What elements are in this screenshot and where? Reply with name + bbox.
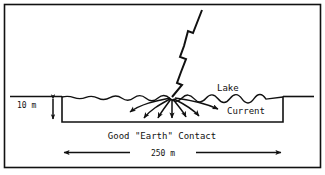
- depth-label: 10 m: [17, 101, 36, 110]
- figure-border: [5, 5, 321, 168]
- figure-container: Lake Current 10 m Good "Earth" Contact 2…: [0, 0, 325, 175]
- current-arrow-fan: [130, 98, 218, 118]
- current-arrow: [144, 99, 170, 118]
- width-label: 250 m: [151, 149, 175, 158]
- lake-label: Lake: [217, 83, 239, 93]
- earth-contact-label: Good "Earth" Contact: [108, 131, 216, 141]
- lightning-bolt-icon: [172, 10, 202, 97]
- current-label: Current: [227, 106, 265, 116]
